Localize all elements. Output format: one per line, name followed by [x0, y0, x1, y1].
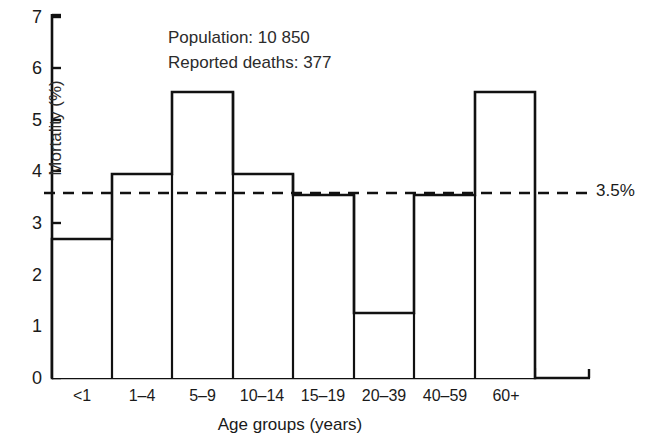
- annotation-reported-deaths: Reported deaths: 377: [168, 53, 332, 73]
- reference-line-label: 3.5%: [596, 181, 635, 201]
- x-tick-label-10-14: 10–14: [231, 388, 293, 404]
- y-tick-label-7: 7: [16, 8, 42, 26]
- y-tick-label-1: 1: [16, 317, 42, 335]
- y-tick-label-6: 6: [16, 59, 42, 77]
- x-tick-label-40-59: 40–59: [414, 388, 476, 404]
- y-tick-label-2: 2: [16, 266, 42, 284]
- x-tick-label-15-19: 15–19: [292, 388, 354, 404]
- y-tick-label-5: 5: [16, 111, 42, 129]
- x-axis-title: Age groups (years): [0, 415, 580, 435]
- y-tick-label-0: 0: [16, 369, 42, 387]
- x-tick-label-20-39: 20–39: [353, 388, 415, 404]
- annotation-population: Population: 10 850: [168, 28, 310, 48]
- y-tick-label-3: 3: [16, 214, 42, 232]
- mortality-by-age-bar-chart: Mortality (%) 7 6 5 4 3 2 1 0 <1 1–4 5–9…: [0, 0, 656, 447]
- x-tick-label-5-9: 5–9: [172, 388, 233, 404]
- x-tick-label-60-plus: 60+: [476, 388, 536, 404]
- y-axis-title: Mortality (%): [46, 28, 66, 228]
- x-tick-label-under-1: <1: [52, 388, 112, 404]
- x-tick-label-1-4: 1–4: [112, 388, 172, 404]
- y-tick-label-4: 4: [16, 162, 42, 180]
